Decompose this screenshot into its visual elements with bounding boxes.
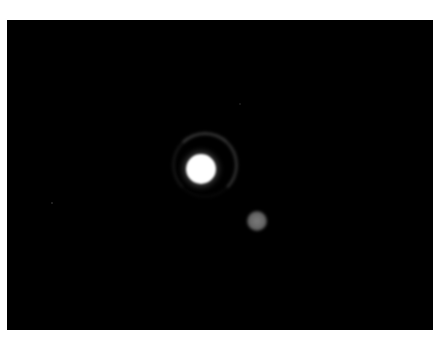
- moon: [247, 211, 267, 231]
- faint-star: [51, 202, 53, 204]
- planet: [186, 154, 216, 184]
- faint-star: [239, 103, 241, 105]
- image-frame: [0, 0, 448, 347]
- night-sky: [7, 20, 433, 330]
